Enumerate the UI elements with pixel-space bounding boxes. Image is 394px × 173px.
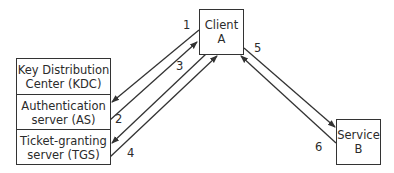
arrow-3 — [112, 54, 206, 143]
arrow-1 — [112, 30, 199, 102]
arrow-4 — [110, 56, 217, 157]
step-label-5: 5 — [254, 41, 261, 55]
service-box: Service B — [336, 119, 381, 165]
kdc-box: Key Distribution Center (KDC) Authentica… — [16, 58, 111, 165]
client-box: Client A — [199, 9, 244, 55]
step-label-3: 3 — [176, 59, 183, 73]
step-label-1: 1 — [183, 18, 190, 32]
step-label-6: 6 — [315, 140, 322, 154]
kdc-title: Key Distribution Center (KDC) — [17, 59, 110, 94]
step-label-2: 2 — [115, 112, 122, 126]
arrow-2 — [110, 42, 197, 120]
service-label: Service B — [337, 120, 380, 164]
arrow-6 — [241, 56, 336, 143]
arrow-5 — [244, 48, 335, 127]
client-label: Client A — [200, 10, 243, 54]
authentication-server: Authentication server (AS) — [17, 94, 110, 130]
step-label-4: 4 — [127, 146, 134, 160]
ticket-granting-server: Ticket-granting server (TGS) — [17, 129, 110, 165]
